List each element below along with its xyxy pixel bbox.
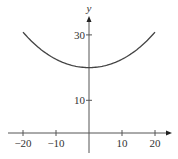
x-tick-label: −20 bbox=[14, 137, 32, 149]
chart: −20−1010201030 y bbox=[0, 0, 178, 159]
x-axis-arrow-icon bbox=[166, 131, 172, 136]
y-axis-arrow-icon bbox=[87, 16, 92, 22]
y-tick-label: 10 bbox=[74, 94, 86, 106]
x-tick-label: 10 bbox=[117, 137, 129, 149]
x-tick-label: −10 bbox=[47, 137, 65, 149]
x-tick-label: 20 bbox=[150, 137, 162, 149]
y-axis-label: y bbox=[86, 2, 92, 14]
axes: −20−1010201030 bbox=[8, 16, 172, 153]
y-tick-label: 30 bbox=[74, 29, 86, 41]
